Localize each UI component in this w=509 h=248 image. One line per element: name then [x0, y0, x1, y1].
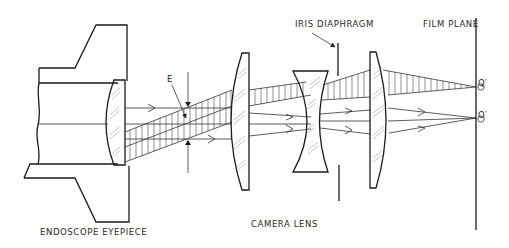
iris-diaphragm [312, 33, 339, 201]
beam-segment-3 [320, 70, 370, 134]
camera-lens-label: CAMERA LENS [251, 219, 318, 229]
iris-diaphragm-label: IRIS DIAPHRAGM [295, 19, 374, 29]
camera-lens-element-3 [370, 52, 386, 188]
film-plane-label: FILM PLANE [423, 19, 479, 29]
eyepiece-label: ENDOSCOPE EYEPIECE [40, 227, 147, 237]
camera-lens-element-1 [231, 53, 249, 190]
image-point-q-label: Q′ [478, 78, 487, 88]
beam-segment-4 [383, 70, 476, 133]
film-plane [476, 18, 484, 230]
axial-rays [125, 104, 232, 143]
exit-pupil-label: E [167, 74, 173, 84]
optical-diagram [0, 0, 509, 248]
eyepiece-housing [24, 25, 129, 222]
eyepiece-lens [106, 80, 125, 165]
image-point-o-label: O′ [478, 110, 487, 120]
camera-lens-element-2 [293, 71, 328, 172]
